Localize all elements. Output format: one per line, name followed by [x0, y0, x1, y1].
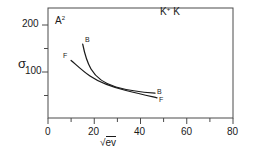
curve-b-end-label: B	[157, 88, 162, 95]
annotation-kk-right: K	[173, 6, 180, 17]
annotation-a2-base: A	[55, 15, 62, 26]
curve-f-end-label: F	[159, 96, 163, 103]
plot-svg	[0, 0, 260, 158]
annotation-kk: K+K	[160, 6, 180, 17]
annotation-a2-sup: 2	[62, 15, 65, 21]
x-tick-label-20: 20	[88, 127, 99, 137]
plot-figure: 200 100 σ 0 20 40 60 80 √ev A2 K+K B F B…	[0, 0, 260, 158]
sqrt-icon: √	[100, 137, 106, 148]
y-tick-label-100: 100	[25, 66, 42, 76]
annotation-a2: A2	[55, 15, 65, 26]
plot-frame	[48, 8, 233, 118]
x-tick-label-0: 0	[45, 127, 51, 137]
x-tick-label-40: 40	[134, 127, 145, 137]
curve-f-start-label: F	[63, 52, 67, 59]
x-tick-label-80: 80	[227, 127, 238, 137]
curve-b-start-label: B	[85, 36, 90, 43]
y-tick-label-200: 200	[22, 19, 39, 29]
curve-b	[83, 44, 155, 93]
y-axis-title: σ	[18, 57, 26, 70]
x-axis-title: √ev	[100, 138, 116, 148]
x-tick-label-60: 60	[181, 127, 192, 137]
annotation-kk-sup: +	[167, 6, 171, 12]
x-axis-major-ticks	[48, 118, 233, 124]
x-axis-title-text: ev	[106, 136, 117, 148]
annotation-kk-left: K	[160, 6, 167, 17]
